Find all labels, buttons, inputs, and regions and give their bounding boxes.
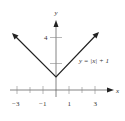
y-axis-label: y bbox=[54, 9, 59, 17]
equation-label: y = |x| + 1 bbox=[78, 57, 109, 65]
x-tick-label-3: 3 bbox=[94, 100, 98, 108]
y-tick-label-4: 4 bbox=[44, 34, 48, 42]
y-axis-arrow-icon bbox=[54, 20, 59, 27]
x-axis-label: x bbox=[115, 87, 120, 95]
x-tick-label-neg1: −1 bbox=[39, 100, 47, 108]
x-tick-label-neg3: −3 bbox=[12, 100, 20, 108]
curve-abs-x-plus-1 bbox=[14, 34, 97, 77]
graph: y x 4 y = |x| + 1 −3 −1 1 3 bbox=[0, 0, 125, 121]
x-tick-label-1: 1 bbox=[68, 100, 72, 108]
x-axis-arrow-icon bbox=[107, 88, 114, 93]
